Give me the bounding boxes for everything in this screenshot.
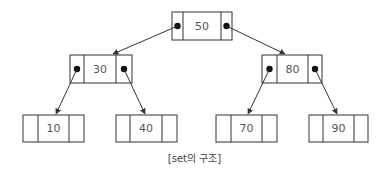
node-value: 50 bbox=[195, 20, 209, 33]
figure-caption: [set의 구조] bbox=[0, 150, 389, 165]
node-value: 30 bbox=[93, 63, 107, 76]
node-value: 80 bbox=[286, 63, 300, 76]
tree-node-10: 10 bbox=[23, 115, 84, 142]
node-value: 90 bbox=[332, 122, 346, 135]
node-value: 40 bbox=[139, 122, 153, 135]
node-value: 70 bbox=[240, 122, 254, 135]
edge-30-40 bbox=[124, 69, 145, 114]
node-value: 10 bbox=[47, 122, 61, 135]
tree-diagram: 50 30 80 10 40 70 bbox=[0, 0, 389, 173]
edge-80-90 bbox=[315, 69, 337, 114]
edge-80-70 bbox=[248, 69, 270, 114]
tree-node-30: 30 bbox=[70, 55, 132, 83]
tree-node-50: 50 bbox=[172, 12, 232, 40]
edge-30-10 bbox=[56, 69, 77, 114]
tree-node-80: 80 bbox=[262, 55, 322, 83]
edge-50-30 bbox=[113, 26, 178, 54]
tree-node-40: 40 bbox=[116, 115, 177, 142]
tree-node-90: 90 bbox=[309, 115, 368, 142]
tree-node-70: 70 bbox=[216, 115, 277, 142]
edge-50-80 bbox=[227, 26, 286, 54]
